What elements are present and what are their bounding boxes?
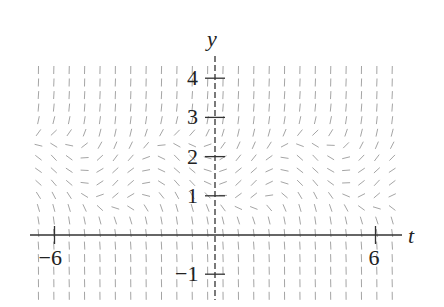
slope-segment xyxy=(115,229,116,237)
slope-segment xyxy=(38,91,39,99)
slope-segment xyxy=(174,180,179,186)
slope-segment xyxy=(389,180,395,185)
x-tick-label: 6 xyxy=(369,247,380,269)
slope-segment xyxy=(281,143,288,147)
slope-segment xyxy=(389,168,396,172)
slope-segment xyxy=(173,143,180,147)
slope-segment xyxy=(144,142,149,148)
slope-segment xyxy=(253,116,254,124)
slope-segment xyxy=(222,217,224,225)
slope-segment xyxy=(376,129,378,137)
slope-segment xyxy=(236,155,241,161)
slope-segment xyxy=(237,142,240,149)
slope-segment xyxy=(130,104,131,112)
slope-segment xyxy=(253,229,254,237)
slope-segment xyxy=(127,206,134,210)
slope-segment xyxy=(361,129,363,137)
slope-segment xyxy=(221,142,226,149)
slope-segment xyxy=(37,204,39,212)
slope-segment xyxy=(115,104,116,112)
slope-segment xyxy=(267,205,272,211)
slope-segment xyxy=(330,116,332,124)
slope-segment xyxy=(359,155,365,161)
slope-segment xyxy=(84,116,85,124)
slope-segment xyxy=(238,242,239,250)
slope-segment xyxy=(297,168,303,173)
slope-segment xyxy=(38,116,40,124)
slope-segment xyxy=(206,204,209,212)
slope-segment xyxy=(96,194,104,197)
slope-segment xyxy=(312,168,318,173)
slope-segment xyxy=(343,142,349,148)
slope-segment xyxy=(174,130,180,136)
slope-segment xyxy=(283,129,286,136)
slope-segment xyxy=(144,205,148,212)
slope-segment xyxy=(269,104,270,112)
slope-segment xyxy=(221,205,226,212)
slope-segment xyxy=(100,242,101,250)
slope-segment xyxy=(376,116,377,124)
slope-segment xyxy=(235,168,241,173)
slope-segment xyxy=(266,169,273,172)
slope-segment xyxy=(315,104,316,112)
slope-segment xyxy=(251,155,256,161)
slope-segment xyxy=(342,194,349,197)
y-axis-label: y xyxy=(207,28,217,50)
slope-segment xyxy=(69,104,70,112)
slope-segment xyxy=(112,168,118,173)
slope-segment xyxy=(238,229,239,237)
slope-segment xyxy=(346,242,347,250)
slope-segment xyxy=(81,158,89,159)
slope-segment xyxy=(130,217,132,225)
slope-segment xyxy=(145,217,147,225)
slope-segment xyxy=(284,242,285,250)
slope-segment xyxy=(266,181,273,185)
slope-segment xyxy=(360,217,362,225)
slope-segment xyxy=(174,155,180,161)
slope-segment xyxy=(300,104,301,112)
slope-segment xyxy=(207,229,208,237)
slope-segment xyxy=(358,180,364,185)
slope-segment xyxy=(207,91,208,99)
slope-segment xyxy=(330,104,331,112)
slope-segment xyxy=(207,104,208,112)
slope-segment xyxy=(112,207,120,210)
slope-segment xyxy=(146,116,147,124)
slope-segment xyxy=(38,104,39,112)
slope-segment xyxy=(329,129,333,136)
slope-segment xyxy=(81,143,87,148)
slope-segment xyxy=(190,130,195,136)
slope-segment xyxy=(97,155,103,160)
slope-segment xyxy=(284,229,285,237)
slope-segment xyxy=(281,182,289,184)
slope-segment xyxy=(254,104,255,112)
slope-segment xyxy=(84,229,85,237)
slope-segment xyxy=(98,142,102,149)
slope-segment xyxy=(174,168,180,173)
slope-segment xyxy=(265,195,273,196)
slope-segment xyxy=(327,156,334,160)
slope-segment xyxy=(392,104,393,112)
slope-segment xyxy=(344,204,348,211)
slope-segment xyxy=(68,116,70,124)
slope-segment xyxy=(223,242,224,250)
slope-segment xyxy=(266,155,273,160)
slope-segment xyxy=(297,155,303,160)
slope-segment xyxy=(113,155,118,161)
slope-segment xyxy=(298,192,302,199)
slope-segment xyxy=(361,116,362,124)
slope-segment xyxy=(346,116,347,124)
slope-segment xyxy=(130,116,131,124)
slope-segment xyxy=(219,169,227,172)
slope-segment xyxy=(342,157,350,159)
slope-segment xyxy=(282,193,288,198)
slope-segment xyxy=(67,129,72,136)
t-axis-label: t xyxy=(408,225,414,247)
slope-segment xyxy=(284,104,285,112)
slope-segment xyxy=(131,242,132,250)
slope-segment xyxy=(177,229,178,237)
x-tick-label: −6 xyxy=(39,247,62,269)
slope-segment xyxy=(100,229,101,237)
slope-segment xyxy=(299,116,301,124)
y-tick-label: 1 xyxy=(187,185,198,207)
